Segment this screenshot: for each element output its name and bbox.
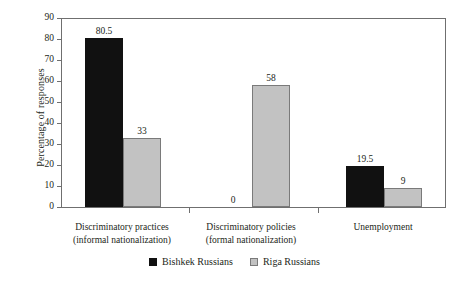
bar-bishkek-russians-0 bbox=[85, 38, 123, 207]
bar-value-label: 19.5 bbox=[340, 154, 390, 164]
bar-value-label: 33 bbox=[117, 126, 167, 136]
black-square-icon bbox=[149, 258, 157, 266]
y-axis-tick-label: 80 bbox=[45, 32, 55, 45]
bar-riga-russians-2 bbox=[384, 188, 422, 207]
bar-bishkek-russians-2 bbox=[346, 166, 384, 207]
y-axis-tick-label: 20 bbox=[45, 158, 55, 171]
category-label-line: Unemployment bbox=[303, 221, 463, 234]
grouped-bar-chart: Percentage of responses 9080706050403020… bbox=[0, 0, 469, 282]
y-axis-tick-label: 0 bbox=[49, 200, 54, 213]
bar-value-label: 58 bbox=[246, 73, 296, 83]
bar-value-label: 9 bbox=[378, 176, 428, 186]
category-label-line: (formal nationalization) bbox=[171, 234, 331, 247]
y-axis-tick-label: 90 bbox=[45, 11, 55, 24]
x-axis-category-label-2: Unemployment bbox=[303, 221, 463, 234]
bar-value-label: 0 bbox=[208, 195, 258, 205]
plot-area: 80.5019.533589 bbox=[61, 18, 446, 208]
y-axis-tick-label: 50 bbox=[45, 95, 55, 108]
y-axis-tick-label: 30 bbox=[45, 137, 55, 150]
bar-value-label: 80.5 bbox=[79, 26, 129, 36]
legend-item-0: Bishkek Russians bbox=[149, 256, 233, 267]
y-axis-tick-label: 70 bbox=[45, 53, 55, 66]
gray-square-icon bbox=[250, 258, 258, 266]
chart-legend: Bishkek RussiansRiga Russians bbox=[0, 256, 469, 267]
bar-riga-russians-0 bbox=[123, 138, 161, 207]
y-axis-tick-label: 10 bbox=[45, 179, 55, 192]
bar-riga-russians-1 bbox=[252, 85, 290, 207]
x-axis-group-separator bbox=[189, 208, 190, 213]
legend-item-1: Riga Russians bbox=[250, 256, 320, 267]
y-axis-tick-label: 40 bbox=[45, 116, 55, 129]
legend-item-label: Bishkek Russians bbox=[162, 256, 233, 267]
legend-item-label: Riga Russians bbox=[263, 256, 320, 267]
x-axis-group-separator bbox=[318, 208, 319, 213]
y-axis-tick-label: 60 bbox=[45, 74, 55, 87]
